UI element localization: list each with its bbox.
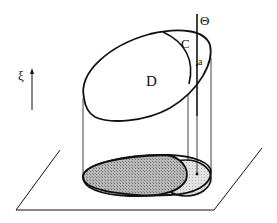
label-c: C <box>181 37 190 50</box>
label-d: D <box>146 74 157 89</box>
label-a: a <box>198 57 202 67</box>
label-theta: Θ <box>200 14 209 27</box>
label-xi: ξ <box>18 69 24 82</box>
diagram-canvas: Θ C a D ξ <box>0 0 277 223</box>
diagram-svg <box>0 0 277 223</box>
xi-arrow-icon <box>30 68 34 110</box>
